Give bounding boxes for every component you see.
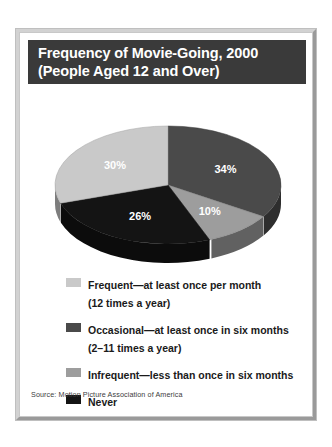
legend-label-frequent-group: Frequent—at least once per month (12 tim… — [88, 275, 261, 311]
legend-item-infrequent: Infrequent—less than once in six months — [66, 365, 310, 383]
legend-item-occasional: Occasional—at least once in six months (… — [66, 320, 310, 356]
page-title-line-2: (People Aged 12 and Over) — [38, 62, 306, 80]
pie-label-never: 26% — [129, 210, 151, 222]
page-title-line-1: Frequency of Movie-Going, 2000 — [38, 44, 306, 62]
legend-swatch-occasional — [66, 323, 81, 332]
legend-swatch-infrequent — [66, 368, 81, 377]
legend-label-infrequent-group: Infrequent—less than once in six months — [88, 365, 293, 383]
pie-label-frequent: 30% — [104, 159, 126, 171]
pie-chart: 34%10%26%30% — [28, 89, 306, 271]
legend-item-frequent: Frequent—at least once per month (12 tim… — [66, 275, 310, 311]
pie-top-faces — [55, 126, 281, 244]
legend-label-infrequent: Infrequent—less than once in six months — [88, 369, 293, 381]
figure-frame: Frequency of Movie-Going, 2000 (People A… — [16, 29, 316, 420]
pie-label-occasional: 34% — [214, 163, 236, 175]
pie-chart-svg: 34%10%26%30% — [28, 89, 306, 271]
legend-sublabel-occasional: (2–11 times a year) — [88, 342, 181, 354]
legend-swatch-frequent — [66, 278, 81, 287]
legend-label-occasional: Occasional—at least once in six months — [88, 324, 289, 336]
figure-inner-border: Frequency of Movie-Going, 2000 (People A… — [19, 32, 313, 417]
legend-label-frequent: Frequent—at least once per month — [88, 279, 261, 291]
source-note: Source: Motion Picture Association of Am… — [31, 390, 183, 399]
chart-title-bar: Frequency of Movie-Going, 2000 (People A… — [28, 40, 306, 84]
legend-label-occasional-group: Occasional—at least once in six months (… — [88, 320, 289, 356]
legend-sublabel-frequent: (12 times a year) — [88, 297, 170, 309]
pie-label-infrequent: 10% — [199, 205, 221, 217]
